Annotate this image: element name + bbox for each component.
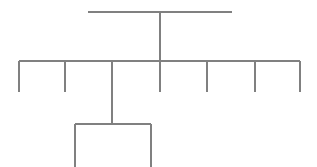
- sub-branch-legs: [75, 124, 151, 167]
- hierarchy-tree-diagram: [0, 0, 317, 167]
- sub-bracket-group: [75, 61, 151, 167]
- root-bracket-group: [88, 12, 232, 92]
- diagram-canvas: [0, 0, 317, 167]
